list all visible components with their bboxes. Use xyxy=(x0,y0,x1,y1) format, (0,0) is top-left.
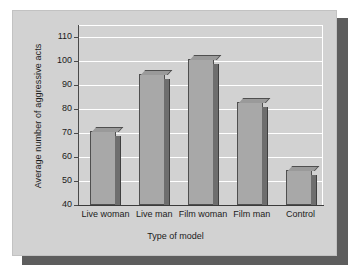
bar-top-face xyxy=(287,166,319,171)
y-axis-tick-label: 40 xyxy=(48,199,72,209)
chart-panel: Average number of aggressive acts 405060… xyxy=(12,10,337,256)
bar xyxy=(139,74,165,205)
x-axis-tick-label: Control xyxy=(286,209,315,219)
x-axis-tick-label: Film woman xyxy=(179,209,228,219)
panel-shadow-right xyxy=(337,18,348,263)
plot-wrapper: 405060708090100110 Live womanLive manFil… xyxy=(79,25,323,205)
bar xyxy=(90,131,116,205)
x-axis-line xyxy=(78,205,324,206)
bar-top-face xyxy=(190,55,222,60)
bar-side-face xyxy=(213,64,219,205)
x-axis-tick-label: Live woman xyxy=(81,209,129,219)
bar-side-face xyxy=(262,107,268,205)
y-axis-tick-label: 50 xyxy=(48,175,72,185)
bar-side-face xyxy=(164,79,170,205)
bar xyxy=(286,170,312,205)
y-axis-tick-label: 100 xyxy=(48,55,72,65)
y-axis-tick-label: 80 xyxy=(48,103,72,113)
x-axis-tick-label: Film man xyxy=(233,209,270,219)
y-axis-tick-label: 70 xyxy=(48,127,72,137)
gridline xyxy=(79,37,323,38)
y-axis-tick-label: 90 xyxy=(48,79,72,89)
bar xyxy=(188,59,214,205)
y-axis-title: Average number of aggressive acts xyxy=(33,31,43,201)
bar-top-face xyxy=(141,70,173,75)
y-axis-line xyxy=(78,25,79,206)
bar-top-face xyxy=(239,98,271,103)
x-axis-title: Type of model xyxy=(13,231,338,241)
bar xyxy=(237,102,263,205)
y-axis-tick-label: 110 xyxy=(48,31,72,41)
x-axis-tick-label: Live man xyxy=(136,209,173,219)
panel-shadow-bottom xyxy=(22,256,348,265)
figure: Average number of aggressive acts 405060… xyxy=(0,0,356,276)
y-axis-tick-label: 60 xyxy=(48,151,72,161)
bar-side-face xyxy=(115,136,121,205)
bar-side-face xyxy=(311,175,317,205)
bar-top-face xyxy=(92,127,124,132)
